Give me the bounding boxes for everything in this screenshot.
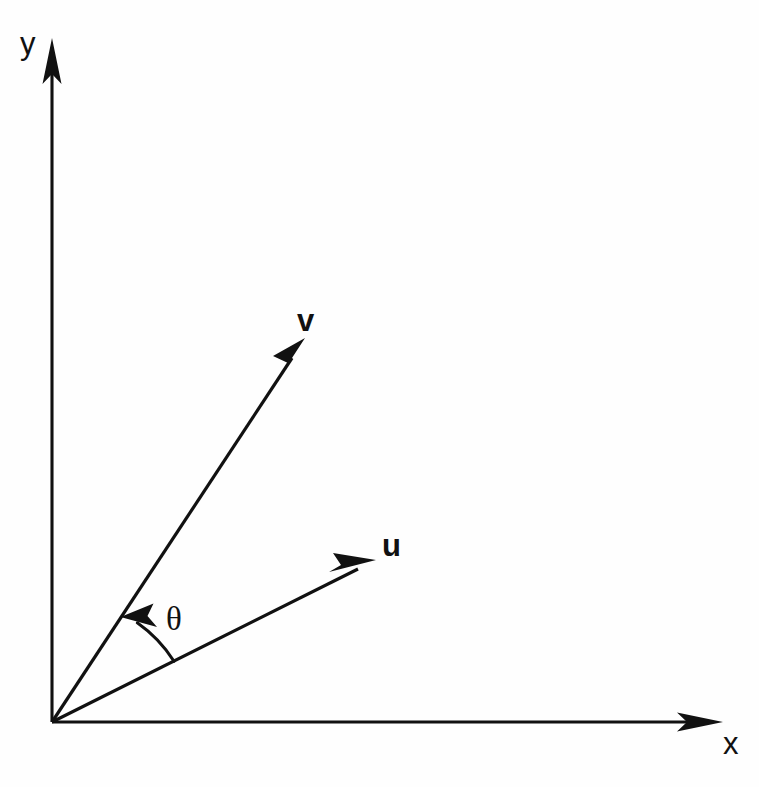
vector-diagram-canvas: y x v u θ: [0, 0, 759, 787]
vector-u-line: [52, 569, 358, 722]
vector-v-label: v: [297, 303, 315, 338]
x-axis-group: [52, 713, 723, 732]
y-axis-label: y: [20, 26, 36, 61]
x-axis-label: x: [723, 726, 739, 761]
vector-v-arrowhead: [273, 338, 305, 378]
vector-v-group: [52, 338, 305, 722]
vector-u-group: [52, 553, 376, 722]
vector-v-line: [52, 358, 292, 722]
y-axis-group: [43, 38, 62, 722]
vector-u-arrowhead: [329, 553, 376, 572]
vector-angle-figure: y x v u θ: [0, 0, 759, 787]
vector-u-label: u: [382, 528, 401, 563]
angle-theta-label: θ: [166, 601, 182, 637]
